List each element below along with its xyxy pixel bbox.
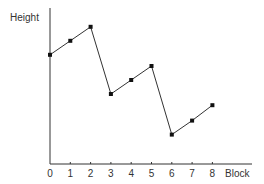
data-point-square-marker (109, 92, 113, 96)
x-ticks: 012345678 (47, 162, 215, 179)
x-tick-label: 3 (108, 168, 114, 179)
data-point-square-marker (89, 25, 93, 29)
x-tick-label: 8 (210, 168, 216, 179)
x-tick-label: 1 (68, 168, 74, 179)
x-tick-label: 0 (47, 168, 53, 179)
data-point-square-marker (48, 53, 52, 57)
plot-area (48, 25, 214, 137)
axes (50, 8, 252, 164)
x-tick-label: 5 (149, 168, 155, 179)
data-point-square-marker (210, 103, 214, 107)
data-point-square-marker (129, 78, 133, 82)
x-tick-label: 2 (88, 168, 94, 179)
data-point-square-marker (170, 133, 174, 137)
x-tick-label: 4 (128, 168, 134, 179)
y-axis-label: Height (10, 12, 39, 23)
data-point-square-marker (190, 119, 194, 123)
x-tick-label: 6 (169, 168, 175, 179)
data-point-square-marker (150, 64, 154, 68)
x-axis-label: Block (225, 168, 250, 179)
line-chart: 012345678 Height Block (0, 0, 264, 184)
data-point-square-marker (68, 39, 72, 43)
x-tick-label: 7 (189, 168, 195, 179)
